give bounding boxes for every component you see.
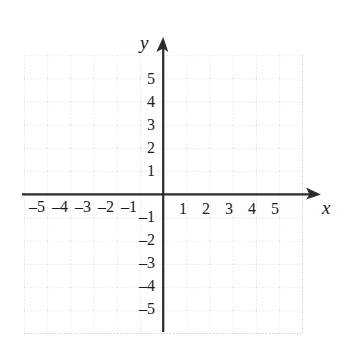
x-tick-label-neg-3: –3	[72, 199, 94, 215]
x-tick-label-pos-4: 4	[245, 201, 259, 217]
x-tick-label-neg-5: –5	[26, 199, 48, 215]
x-tick-label-pos-3: 3	[222, 201, 236, 217]
y-tick-label-neg-2: –2	[136, 232, 158, 248]
y-tick-label-pos-5: 5	[144, 71, 158, 87]
y-tick-label-neg-3: –3	[136, 255, 158, 271]
x-axis-label: x	[322, 198, 330, 217]
x-tick-label-neg-4: –4	[49, 199, 71, 215]
y-tick-label-pos-1: 1	[144, 163, 158, 179]
axis-lines	[0, 0, 347, 356]
y-tick-label-pos-3: 3	[144, 117, 158, 133]
y-tick-label-pos-4: 4	[144, 94, 158, 110]
x-tick-label-pos-2: 2	[199, 201, 213, 217]
coordinate-plane-figure: y x –5 –4 –3 –2 –1 1 2 3 4 5 5 4 3 2 1 –…	[0, 0, 347, 356]
y-axis-label: y	[140, 33, 148, 52]
y-tick-label-neg-5: –5	[136, 301, 158, 317]
x-tick-label-neg-2: –2	[95, 199, 117, 215]
y-tick-label-neg-1: –1	[136, 209, 158, 225]
y-tick-label-neg-4: –4	[136, 278, 158, 294]
y-tick-label-pos-2: 2	[144, 140, 158, 156]
x-tick-label-pos-1: 1	[176, 201, 190, 217]
x-tick-label-pos-5: 5	[268, 201, 282, 217]
